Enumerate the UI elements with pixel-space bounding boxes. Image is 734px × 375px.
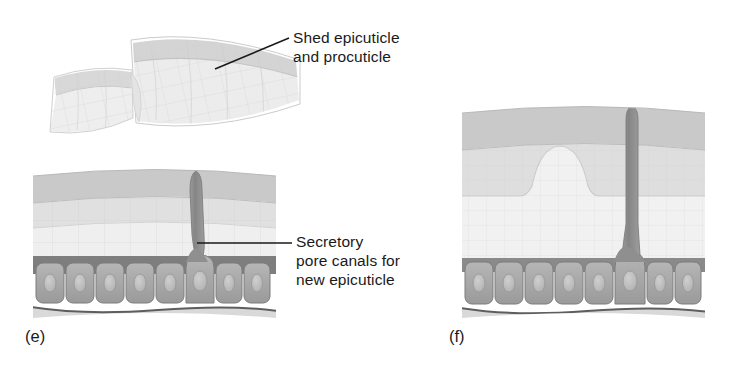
epidermal-cell bbox=[244, 263, 270, 303]
shed-fragment-left bbox=[40, 60, 150, 145]
panel-label-e: (e) bbox=[25, 327, 45, 346]
callout-secretory-line1: Secretory bbox=[296, 233, 363, 250]
figure-root: Shed epicuticleand procuticle Secretoryp… bbox=[0, 0, 734, 375]
callout-secretory-line2: pore canals for bbox=[296, 252, 400, 269]
epidermal-cell bbox=[675, 262, 701, 304]
epidermal-cell bbox=[126, 263, 154, 303]
callout-shed-line1: Shed epicuticle bbox=[293, 29, 400, 46]
epidermal-cell bbox=[216, 263, 242, 303]
epidermal-cell bbox=[66, 263, 94, 303]
epidermal-cell bbox=[36, 263, 64, 303]
shed-fragment-right bbox=[120, 25, 320, 140]
callout-secretory-line3: new epicuticle bbox=[296, 271, 395, 288]
epidermal-cell bbox=[555, 262, 583, 304]
callout-shed-line2: and procuticle bbox=[293, 48, 391, 65]
epidermal-cell bbox=[465, 262, 493, 304]
callout-secretory-pore-canals: Secretorypore canals fornew epicuticle bbox=[296, 232, 400, 289]
epidermal-cell bbox=[156, 263, 184, 303]
epidermal-cell bbox=[96, 263, 124, 303]
epidermal-cell bbox=[525, 262, 553, 304]
epidermal-cell bbox=[585, 262, 613, 304]
epidermal-cell bbox=[495, 262, 523, 304]
panel-label-f: (f) bbox=[449, 327, 465, 346]
epidermal-cell bbox=[647, 262, 673, 304]
secretory-epidermal-cell bbox=[186, 255, 214, 303]
panel-f-diagram bbox=[455, 100, 715, 322]
callout-shed-epicuticle: Shed epicuticleand procuticle bbox=[293, 28, 400, 66]
